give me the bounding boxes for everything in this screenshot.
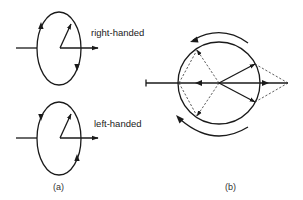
- caption-a: (a): [53, 182, 64, 192]
- left-handed-diagram: left-handed: [16, 102, 142, 175]
- lower-rotation-arc: [181, 120, 248, 136]
- right-handed-label: right-handed: [91, 27, 144, 38]
- rotation-arrow-down-icon: [38, 114, 43, 121]
- field-vector-arrow: [60, 24, 71, 48]
- axis-arrow-right-icon: [262, 80, 269, 86]
- right-handed-diagram: right-handed: [16, 12, 144, 85]
- caption-b: (b): [225, 182, 236, 192]
- field-vector-arrow: [60, 114, 71, 138]
- vector-lower-right: [219, 83, 255, 102]
- left-handed-label: left-handed: [94, 118, 142, 129]
- vector-upper-right: [219, 64, 255, 83]
- vector-lower-left-dashed: [197, 83, 219, 116]
- axis-arrow-left-icon: [195, 80, 202, 86]
- polarization-figure: right-handed left-handed (a): [0, 0, 303, 200]
- panel-b-diagram: [146, 33, 288, 136]
- rotation-arrow-down-icon: [74, 64, 79, 71]
- vector-upper-left-dashed: [197, 50, 219, 83]
